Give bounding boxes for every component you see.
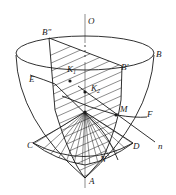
label-K1: K1 <box>66 64 76 75</box>
point-cone-apex <box>83 110 86 113</box>
label-B: B <box>156 49 162 59</box>
label-C: C <box>27 140 34 150</box>
label-N: N <box>99 154 107 164</box>
label-E: E <box>28 74 35 84</box>
label-M: M <box>119 104 128 114</box>
label-K2: K2 <box>90 83 100 94</box>
label-D: D <box>132 141 140 151</box>
point-K1 <box>68 79 71 82</box>
curve-MF <box>62 96 147 117</box>
point-K2 <box>83 90 86 93</box>
label-A: A <box>88 176 95 186</box>
point-M <box>114 113 117 116</box>
label-F: F <box>146 109 153 119</box>
label-O: O <box>88 16 95 26</box>
label-B-double-prime: B" <box>42 27 51 37</box>
bowl-geometry-diagram: O B" B B' E K1 K2 M F n C D N A <box>0 0 176 195</box>
curve-E <box>30 75 118 160</box>
label-B-prime: B' <box>121 62 129 72</box>
label-n: n <box>158 141 163 151</box>
